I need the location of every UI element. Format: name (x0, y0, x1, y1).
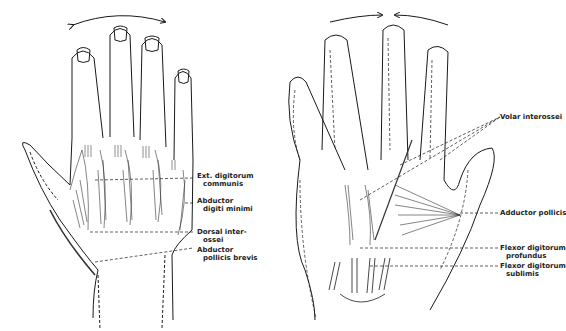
adduction-arrow-right-icon (395, 15, 448, 25)
adduction-arrow-left-icon (330, 15, 382, 22)
label-flexor-digitorum-profundus: Flexor digitorum profundus (500, 244, 566, 260)
label-dorsal-interossei: Dorsal inter- ossei (197, 228, 247, 244)
label-adductor-pollicis: Adductor pollicis (500, 209, 566, 217)
abduction-arrow-icon (73, 16, 165, 25)
label-ext-digitorum-communis: Ext. digitorum communis (197, 172, 253, 188)
right-hand-palmar (289, 15, 500, 320)
label-volar-interossei: Volar interossei (500, 113, 562, 121)
label-flexor-digitorum-sublimis: Flexor digitorum sublimis (500, 262, 566, 278)
label-abductor-pollicis-brevis: Abductor pollicis brevis (197, 246, 258, 262)
left-hand-dorsal (22, 16, 193, 330)
label-abductor-digiti-minimi: Abductor digiti minimi (197, 197, 253, 213)
